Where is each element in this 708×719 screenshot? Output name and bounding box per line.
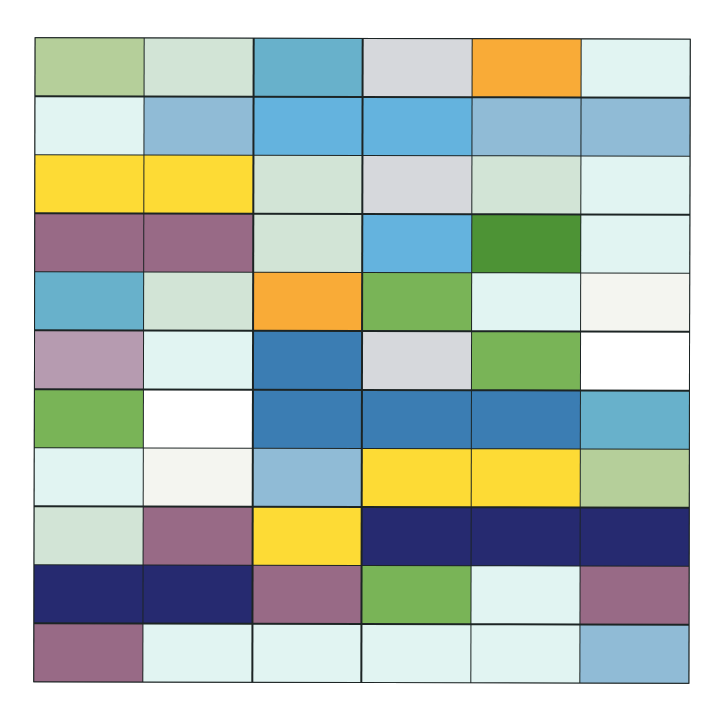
grid-cell (581, 215, 689, 272)
grid-cell (254, 215, 362, 272)
grid-cell (144, 449, 252, 506)
grid-cell (253, 625, 361, 682)
grid-cell (363, 332, 471, 389)
grid-cell (144, 390, 252, 447)
grid-cell (581, 567, 689, 624)
grid-cell (34, 566, 142, 623)
grid-cell (471, 625, 579, 682)
grid-cell (35, 507, 143, 564)
grid-cell (34, 624, 142, 681)
grid-cell (254, 273, 362, 330)
grid-cell (362, 566, 470, 623)
grid-cell (35, 448, 143, 505)
grid-cell (582, 157, 690, 214)
grid-cell (581, 625, 689, 682)
grid-cell (35, 97, 143, 154)
grid-cell (35, 214, 143, 271)
grid-cell (472, 449, 580, 506)
grid-cell (581, 274, 689, 331)
grid-cell (363, 39, 471, 96)
grid-cell (582, 39, 690, 96)
grid-cell (472, 274, 580, 331)
grid-cell (363, 273, 471, 330)
grid-cell (144, 507, 252, 564)
grid-cell (144, 566, 252, 623)
grid-cell (144, 624, 252, 681)
grid-cell (362, 625, 470, 682)
grid-cell (472, 508, 580, 565)
grid-cell (581, 508, 689, 565)
grid-cell (253, 449, 361, 506)
grid-cell (144, 214, 252, 271)
grid-cell (254, 97, 362, 154)
grid-cell (362, 508, 470, 565)
grid-cell (362, 449, 470, 506)
grid-cell (582, 98, 690, 155)
grid-cell (145, 156, 253, 213)
grid-cell (145, 39, 253, 96)
grid-cell (254, 156, 362, 213)
grid-cell (35, 273, 143, 330)
grid-cell (472, 332, 580, 389)
grid-cell (36, 38, 144, 95)
grid-cell (254, 39, 362, 96)
grid-cell (581, 332, 689, 389)
grid-cell (253, 332, 361, 389)
grid-cell (363, 391, 471, 448)
grid-cell (473, 39, 581, 96)
grid-cell (472, 391, 580, 448)
grid-cell (363, 156, 471, 213)
grid-cell (35, 155, 143, 212)
grid-cell (144, 273, 252, 330)
grid-cell (472, 215, 580, 272)
grid-cell (363, 98, 471, 155)
grid-cell (253, 507, 361, 564)
grid-cell (581, 391, 689, 448)
grid-cell (144, 331, 252, 388)
grid-cell (363, 215, 471, 272)
grid-cell (472, 98, 580, 155)
grid-cell (581, 450, 689, 507)
grid-cell (471, 567, 579, 624)
grid-cell (253, 566, 361, 623)
grid-cell (35, 331, 143, 388)
color-grid (33, 37, 690, 683)
grid-cell (145, 97, 253, 154)
grid-cell (472, 156, 580, 213)
grid-cell (35, 390, 143, 447)
grid-cell (253, 390, 361, 447)
